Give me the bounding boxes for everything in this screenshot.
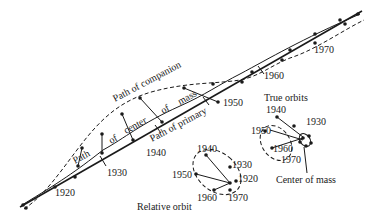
svg-text:1970: 1970 bbox=[228, 192, 248, 203]
true-orbits: True orbits 1940 1930 1950 1960 1970 Cen… bbox=[251, 92, 336, 185]
svg-text:mass: mass bbox=[176, 87, 199, 106]
svg-text:of: of bbox=[159, 102, 172, 116]
svg-text:1960: 1960 bbox=[197, 192, 217, 203]
year-label-1940: 1940 bbox=[146, 147, 166, 158]
year-label-1920: 1920 bbox=[55, 187, 75, 198]
svg-text:1970: 1970 bbox=[281, 154, 301, 165]
svg-text:1930: 1930 bbox=[306, 116, 326, 127]
svg-text:Path: Path bbox=[71, 148, 92, 166]
year-label-1970: 1970 bbox=[314, 44, 334, 55]
relative-orbit-title: Relative orbit bbox=[137, 201, 192, 212]
binary-star-diagram: Path of companion Path of primary Path o… bbox=[0, 0, 378, 221]
year-label-1960: 1960 bbox=[264, 70, 284, 81]
svg-text:1930: 1930 bbox=[232, 159, 252, 170]
svg-text:1940: 1940 bbox=[266, 104, 286, 115]
svg-text:1960: 1960 bbox=[273, 143, 293, 154]
primary-path-label: Path of primary bbox=[148, 105, 209, 144]
svg-text:center: center bbox=[122, 114, 149, 136]
year-label-1930: 1930 bbox=[107, 167, 127, 178]
true-orbits-title: True orbits bbox=[264, 92, 308, 103]
svg-text:1940: 1940 bbox=[197, 143, 217, 154]
svg-text:1920: 1920 bbox=[238, 173, 258, 184]
companion-path-label: Path of companion bbox=[111, 59, 183, 104]
center-of-mass-pointer bbox=[304, 147, 307, 173]
svg-text:1950: 1950 bbox=[251, 125, 271, 136]
year-label-1950: 1950 bbox=[223, 97, 243, 108]
center-of-mass-label: Center of mass bbox=[276, 174, 336, 185]
svg-text:of: of bbox=[107, 132, 120, 146]
svg-text:1950: 1950 bbox=[172, 169, 192, 180]
